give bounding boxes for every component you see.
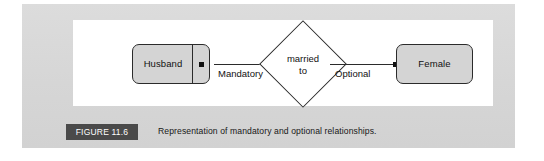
relationship-diamond-married-to[interactable]: married to [272,33,334,95]
entity-label-husband: Husband [133,59,193,69]
connector-label-mandatory: Mandatory [218,68,263,79]
relationship-label-line2: to [299,64,307,75]
figure-number-badge: FIGURE 11.6 [66,124,138,140]
connector-line-optional [330,64,398,65]
connector-label-optional: Optional [335,68,370,79]
er-diagram-canvas: Husband Mandatory married to Optional Fe… [73,20,493,106]
figure-caption: Representation of mandatory and optional… [158,126,377,136]
cardinality-dot-husband [199,62,204,67]
figure-panel: Husband Mandatory married to Optional Fe… [22,4,515,148]
relationship-label-line1: married [287,53,319,64]
entity-box-female[interactable]: Female [396,44,473,84]
figure-container: Husband Mandatory married to Optional Fe… [0,0,544,161]
figure-number-label: FIGURE 11.6 [76,127,129,137]
entity-label-female: Female [397,59,472,69]
